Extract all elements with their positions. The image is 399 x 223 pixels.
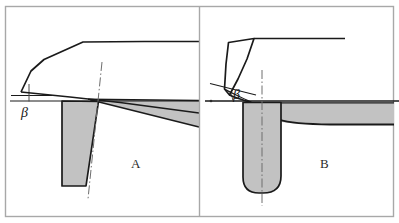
panel-a-angle-label: β (20, 105, 28, 120)
panel-a-label: A (131, 156, 141, 171)
panel-b-label: B (320, 156, 329, 171)
figure-root: β A β (0, 0, 399, 223)
panel-b-angle-vertex-dot (210, 100, 213, 103)
cutting-geometry-diagram: β A β (0, 0, 399, 223)
panel-b-angle-label: β (232, 87, 240, 102)
